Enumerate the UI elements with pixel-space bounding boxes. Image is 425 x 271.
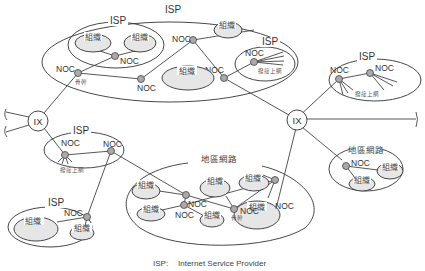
isp-label: ISP <box>262 36 278 47</box>
org-label: 組織 <box>143 204 159 214</box>
org-label: 組織 <box>85 32 101 42</box>
backbone-label: 骨幹 <box>75 78 87 86</box>
noc-backbone-node <box>75 70 82 77</box>
noc-label: NOC <box>64 208 83 218</box>
org-label: 組織 <box>207 176 223 186</box>
noc-node <box>84 214 91 221</box>
noc-label: NOC <box>56 64 75 74</box>
org-label: 組織 <box>354 175 370 185</box>
org-label: 組織 <box>138 180 154 190</box>
noc-node <box>183 192 190 199</box>
noc-node <box>367 70 374 77</box>
noc-node <box>221 75 228 82</box>
noc-label: NOC <box>172 34 191 44</box>
regional-label: 地區網路 <box>201 154 237 164</box>
noc-node <box>138 76 145 83</box>
noc-node <box>272 177 279 184</box>
org-label: 組織 <box>132 32 148 42</box>
dialup-label: 撥接上網 <box>355 90 379 98</box>
noc-label: NOC <box>245 48 264 58</box>
ix-label: IX <box>293 115 303 126</box>
isp-dialup-boundary <box>235 47 295 81</box>
noc-node <box>181 202 188 209</box>
noc-label: NOC <box>175 210 194 220</box>
legend-text: Internet Service Provider <box>178 259 266 268</box>
isp-label: ISP <box>73 125 89 136</box>
noc-node <box>112 53 119 60</box>
isp-nested-label: ISP <box>110 15 126 26</box>
noc-label: NOC <box>120 56 139 66</box>
noc-label: NOC <box>103 139 122 149</box>
network-diagram: ISP ISP 組織 組織 NOC NOC 骨幹 NOC NOC NOC 組織 … <box>0 0 425 271</box>
regional-label: 地區網路 <box>348 145 384 155</box>
isp-large-label: ISP <box>165 4 181 15</box>
org-label: 組織 <box>179 66 195 76</box>
noc-label: NOC <box>275 201 294 211</box>
backbone-label: 骨幹 <box>231 214 243 222</box>
isp-label: ISP <box>359 51 375 62</box>
noc-node <box>336 76 343 83</box>
isp-label: ISP <box>48 197 64 208</box>
dialup-label: 撥接上網 <box>258 67 282 75</box>
noc-label: NOC <box>351 158 370 168</box>
noc-node <box>62 152 69 159</box>
ix-label: IX <box>34 116 44 127</box>
noc-backbone-node <box>231 206 238 213</box>
noc-node <box>343 163 350 170</box>
org-label: 組織 <box>74 223 90 233</box>
org-label: 組織 <box>245 173 261 183</box>
org-label: 組織 <box>25 216 41 226</box>
dialup-label: 撥接上網 <box>60 166 84 174</box>
org-label: 組織 <box>204 210 220 220</box>
noc-node <box>251 59 258 66</box>
org-label: 組織 <box>219 20 235 30</box>
noc-label: NOC <box>137 83 156 93</box>
noc-label: NOC <box>330 65 349 75</box>
legend-abbr: ISP: <box>153 259 168 268</box>
org-label: 組織 <box>382 162 398 172</box>
noc-label: NOC <box>61 138 80 148</box>
noc-label: NOC <box>375 63 394 73</box>
noc-label: NOC <box>188 199 207 209</box>
